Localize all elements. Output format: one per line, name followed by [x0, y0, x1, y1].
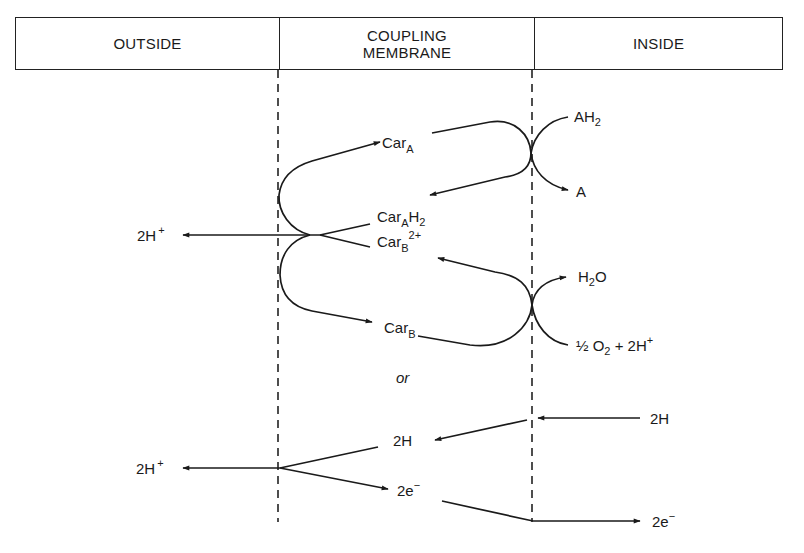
2H-to-split-line [280, 447, 378, 468]
O2-to-H2O-arrow [532, 277, 568, 345]
label-or: or [396, 369, 410, 386]
carA-to-inside-path [432, 121, 531, 153]
label-2Hplus-top: 2H+ [137, 224, 165, 244]
label-carA: CarA [382, 134, 414, 155]
carB2plus-to-cross-line [320, 235, 370, 247]
split-to-2e-arrow [280, 468, 388, 489]
label-2H-inside: 2H [650, 410, 669, 427]
inside-to-carAH2-arrow [430, 153, 531, 195]
label-H2O: H2O [578, 268, 607, 288]
carAH2-to-cross-line [320, 224, 370, 235]
AH2-to-A-arrow [531, 117, 568, 190]
carB-to-inside-path [418, 305, 532, 346]
label-2e-inside: 2e− [652, 510, 675, 530]
cross-to-carA-arrow [279, 142, 380, 235]
redox-loop-diagram: CarA CarAH2 CarB2+ CarB AH2 A H2O ½ O2 +… [0, 0, 804, 553]
label-2Hplus-bottom: 2H+ [136, 457, 164, 477]
label-carAH2: CarAH2 [377, 208, 425, 229]
label-half-O2-plus-2Hplus: ½ O2 + 2H+ [576, 334, 653, 357]
inside-to-carB2plus-arrow [438, 258, 532, 305]
2e-to-inside-line [442, 501, 640, 521]
label-carB2plus: CarB2+ [377, 229, 421, 254]
membrane-2H-arrow [435, 420, 527, 440]
label-2H-membrane: 2H [393, 432, 412, 449]
label-A: A [576, 183, 586, 200]
label-AH2: AH2 [574, 108, 601, 128]
cross-to-carB-arrow [280, 235, 372, 322]
label-2e-membrane: 2e− [397, 479, 420, 499]
label-carB: CarB [384, 319, 416, 340]
